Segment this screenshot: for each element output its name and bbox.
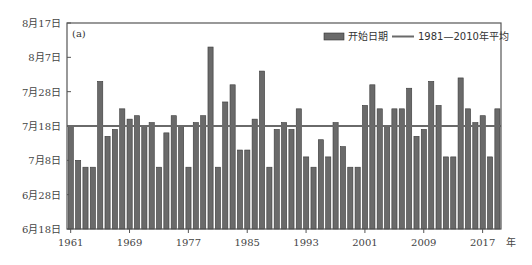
x-tick-label: 1985 [234,237,259,248]
bar-1975 [171,116,176,229]
x-tick-label: 1993 [293,237,318,248]
bar-1990 [282,123,287,229]
bar-2018 [487,157,492,229]
bar-1980 [208,47,213,229]
bar-2014 [458,78,463,229]
x-tick-label: 1961 [58,237,83,248]
y-tick-label: 7月8日 [28,155,61,166]
bar-1985 [245,150,250,229]
bar-1993 [304,157,309,229]
bar-2016 [473,123,478,229]
y-axis: 6月18日6月28日7月8日7月18日7月28日8月7日8月17日 [22,18,71,235]
bar-1971 [142,126,147,229]
bar-1988 [267,167,272,229]
start-date-bar-chart: 6月18日6月28日7月8日7月18日7月28日8月7日8月17日 196119… [0,0,532,265]
legend-line-label: 1981—2010年平均 [418,30,509,42]
bar-2012 [443,157,448,229]
x-tick-label: 2001 [352,237,377,248]
bar-1982 [223,102,228,229]
x-tick-label: 2009 [411,237,436,248]
bar-1977 [186,167,191,229]
bar-1964 [90,167,95,229]
bar-2000 [355,167,360,229]
x-tick-label: 1969 [117,237,142,248]
legend: 开始日期 1981—2010年平均 [324,30,509,42]
bar-1999 [348,167,353,229]
bar-1974 [164,133,169,229]
bar-2011 [436,105,441,229]
bar-1973 [156,167,161,229]
bar-2017 [480,116,485,229]
bar-1979 [201,116,206,229]
x-tick-label: 2017 [470,237,495,248]
bar-2008 [414,136,419,229]
bar-1967 [112,129,117,229]
bar-1976 [179,126,184,229]
bar-1963 [83,167,88,229]
bar-1965 [98,81,103,229]
bar-2013 [451,157,456,229]
bar-1997 [333,123,338,229]
bar-1981 [215,167,220,229]
bar-1995 [318,140,323,229]
bar-2001 [362,105,367,229]
legend-bar-label: 开始日期 [348,30,388,42]
x-tick-label: 1977 [176,237,201,248]
y-tick-label: 8月7日 [28,52,61,63]
legend-bar-swatch [324,33,344,40]
x-unit-label: 年 [506,236,516,248]
bar-1986 [252,119,257,229]
x-axis: 19611969197719851993200120092017年 [58,229,516,248]
bar-series-start-date [68,47,500,229]
bar-1998 [340,147,345,229]
panel-label: (a) [72,28,86,39]
bar-1983 [230,85,235,229]
bar-2009 [421,129,426,229]
bar-1978 [193,123,198,229]
bar-1966 [105,136,110,229]
bar-1996 [326,157,331,229]
bar-1961 [68,126,73,229]
y-tick-label: 7月28日 [22,87,61,98]
bar-1969 [127,119,132,229]
bar-2010 [429,81,434,229]
bar-1994 [311,167,316,229]
bar-1991 [289,129,294,229]
y-tick-label: 6月18日 [22,224,61,235]
bar-2007 [407,88,412,229]
bar-1984 [237,150,242,229]
y-tick-label: 7月18日 [22,121,61,132]
bar-1987 [259,71,264,229]
y-tick-label: 8月17日 [22,18,61,29]
y-tick-label: 6月28日 [22,190,61,201]
bar-1970 [134,116,139,229]
bar-1989 [274,129,279,229]
bar-2002 [370,85,375,229]
bar-1962 [76,160,81,229]
bar-1972 [149,123,154,229]
bar-2004 [385,126,390,229]
